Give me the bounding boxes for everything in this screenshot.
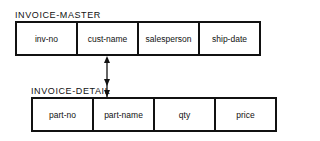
invoice-detail-title: INVOICE-DETAIL (31, 86, 110, 96)
detail-field-part-no: part-no (33, 99, 92, 130)
invoice-detail-record: part-no part-name qty price (31, 97, 277, 132)
detail-field-part-name: part-name (92, 99, 153, 130)
detail-field-price: price (214, 99, 275, 130)
detail-field-qty: qty (153, 99, 214, 130)
